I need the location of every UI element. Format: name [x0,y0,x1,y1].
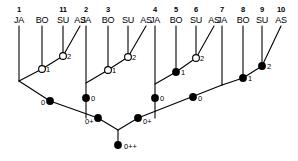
node-g2-n2[interactable] [125,54,132,61]
node-label-root: 0++ [124,143,137,151]
tip-number-5: 2 [77,6,95,14]
node-zeroplus-left[interactable] [94,114,102,122]
tip-number-14: 8 [234,6,252,14]
node-g1-n1[interactable] [39,66,46,73]
node-zeroplus-right[interactable] [134,114,142,122]
node-g3-n1[interactable] [172,68,180,76]
tip-label-g1-su: SU [54,15,72,25]
node-label-g1-n2: 2 [67,53,71,61]
tip-label-g3-bo: BO [167,15,185,25]
tip-label-g4-as: AS [272,15,290,25]
node-zero-2[interactable] [82,94,90,102]
node-g4-n2[interactable] [258,62,266,70]
branch-g4-apex-plusright [138,85,222,118]
tip-number-9: 4 [146,6,164,14]
node-zero-1[interactable] [46,97,54,105]
tip-label-g4-ja: JA [213,15,231,25]
tip-label-g2-ja: JA [77,15,95,25]
node-label-g3-n2: 2 [200,55,204,63]
tip-label-g1-ja: JA [10,15,28,25]
tip-label-g2-bo: BO [99,15,117,25]
branch-g1-apex-zero [19,81,50,101]
node-g2-n1[interactable] [105,67,112,74]
cladogram-canvas: 1 11 2 3 4 5 6 7 8 9 10 JA BO SU AS JA B… [0,0,298,161]
node-label-zeroplus-left: 0+ [85,118,94,126]
tree-branches [19,26,281,145]
node-label-zero-4: 0 [198,95,202,103]
node-g1-n2[interactable] [60,53,67,60]
branch-g4-as [262,26,281,66]
tip-number-13: 7 [213,6,231,14]
node-label-zero-3: 0 [160,95,164,103]
tip-label-g3-su: SU [187,15,205,25]
node-g4-n1[interactable] [239,74,247,82]
node-label-zero-2: 0 [91,95,95,103]
filled-state-nodes [46,62,266,149]
tip-label-g4-bo: BO [234,15,252,25]
node-label-zero-1: 0 [41,99,45,107]
node-label-g2-n1: 1 [112,67,116,75]
tip-number-15: 9 [253,6,271,14]
branch-g3-as [196,26,214,58]
node-label-g3-n1: 1 [181,69,185,77]
branch-g1-as [63,26,80,56]
tip-number-3: 11 [54,6,72,14]
node-label-g4-n2: 2 [267,63,271,71]
node-root[interactable] [114,141,122,149]
node-zero-4[interactable] [189,93,197,101]
tip-number-1: 1 [10,6,28,14]
tip-number-11: 6 [187,6,205,14]
tip-number-6: 3 [99,6,117,14]
node-zero-3[interactable] [151,94,159,102]
tip-label-g2-su: SU [119,15,137,25]
node-label-zeroplus-right: 0+ [143,118,152,126]
node-g3-n2[interactable] [193,55,200,62]
tip-number-10: 5 [167,6,185,14]
branch-g2-as [128,26,146,57]
tip-label-g4-su: SU [253,15,271,25]
tip-label-g3-ja: JA [146,15,164,25]
branch-zero1-plusleft [50,101,98,118]
tip-number-16: 10 [272,6,290,14]
node-label-g2-n2: 2 [132,54,136,62]
node-label-g1-n1: 1 [46,66,50,74]
node-label-g4-n1: 1 [248,75,252,83]
tip-label-g1-bo: BO [33,15,51,25]
